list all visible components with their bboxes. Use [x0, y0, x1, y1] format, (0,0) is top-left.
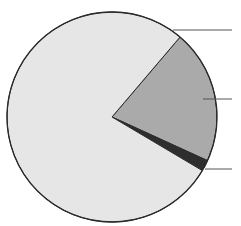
pie-chart: [0, 0, 241, 226]
pie-slices: [7, 12, 217, 222]
